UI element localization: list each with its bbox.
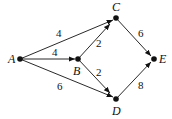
weight-c-e: 6	[138, 27, 144, 39]
node-b	[75, 56, 81, 62]
node-label-c: C	[112, 0, 121, 14]
node-c	[113, 15, 119, 21]
node-e	[151, 56, 157, 62]
node-d	[113, 96, 119, 102]
node-label-d: D	[111, 104, 121, 118]
node-label-a: A	[7, 52, 16, 66]
weight-b-c: 2	[96, 37, 102, 49]
node-label-b: B	[73, 64, 81, 78]
node-a	[17, 56, 23, 62]
weight-a-c: 4	[56, 27, 62, 39]
weight-a-d: 6	[57, 80, 63, 92]
weight-d-e: 8	[138, 79, 144, 91]
edge-b-c	[78, 24, 110, 59]
edge-c-e	[116, 18, 151, 56]
edge-d-e	[116, 62, 151, 99]
weight-a-b: 4	[52, 46, 58, 58]
graph-diagram: 4 4 6 2 2 6 8 A B C D E	[0, 0, 172, 119]
edge-a-d	[20, 59, 113, 97]
node-label-e: E	[158, 52, 167, 66]
weight-b-d: 2	[96, 66, 102, 78]
edge-b-d	[78, 59, 110, 93]
